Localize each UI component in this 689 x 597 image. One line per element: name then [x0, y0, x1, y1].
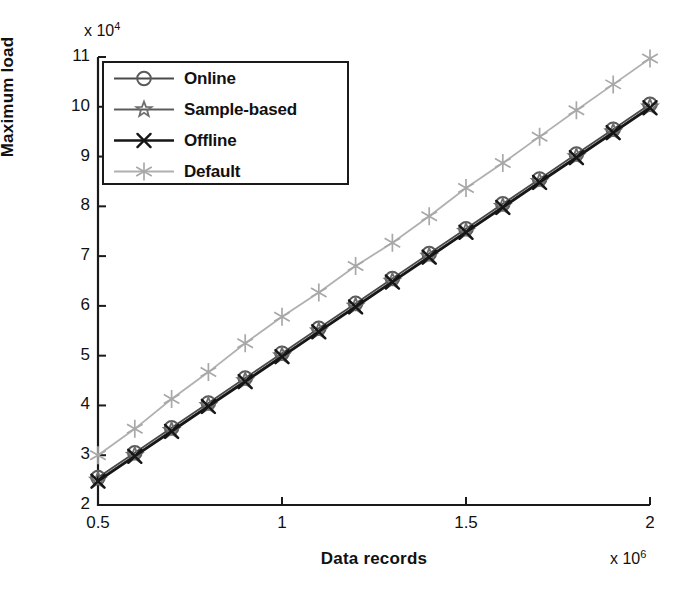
legend-label: Online: [184, 69, 236, 89]
legend-item-online[interactable]: Online: [104, 63, 347, 94]
marker-asterisk: [311, 283, 327, 301]
marker-asterisk: [164, 390, 180, 408]
legend-label: Default: [184, 162, 240, 182]
marker-asterisk: [532, 128, 548, 146]
legend: OnlineSample-basedOfflineDefault: [102, 61, 349, 185]
legend-item-sample-based[interactable]: Sample-based: [104, 94, 347, 125]
legend-label: Offline: [184, 131, 236, 151]
marker-asterisk: [385, 234, 401, 252]
marker-asterisk: [642, 49, 658, 67]
marker-asterisk: [569, 101, 585, 119]
marker-asterisk: [237, 334, 253, 352]
legend-label: Sample-based: [184, 100, 297, 120]
legend-marker-asterisk-icon: [104, 156, 184, 187]
marker-asterisk: [421, 207, 437, 225]
marker-asterisk: [458, 179, 474, 197]
legend-marker-cross-icon: [104, 125, 184, 156]
legend-marker-circle-icon: [104, 63, 184, 94]
legend-marker-star-icon: [104, 94, 184, 125]
marker-asterisk: [201, 363, 217, 381]
marker-asterisk: [495, 154, 511, 172]
figure: x 104 x 106 Maximum load Data records 23…: [0, 0, 689, 597]
legend-item-default[interactable]: Default: [104, 156, 347, 187]
legend-item-offline[interactable]: Offline: [104, 125, 347, 156]
marker-asterisk: [605, 75, 621, 93]
marker-asterisk: [348, 257, 364, 275]
marker-asterisk: [127, 420, 143, 438]
marker-asterisk: [274, 308, 290, 326]
